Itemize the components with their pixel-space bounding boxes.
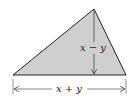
height-label: x − y: [80, 42, 106, 53]
triangle-diagram: x − y x + y: [0, 0, 132, 100]
base-label: x + y: [56, 83, 82, 94]
triangle-shape: [13, 9, 126, 75]
